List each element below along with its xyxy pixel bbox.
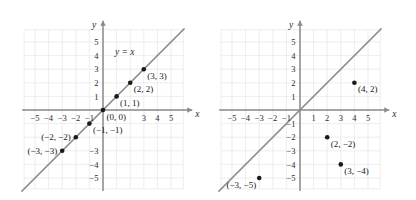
point-label: (0, 0) xyxy=(107,112,127,122)
x-tick--4: −4 xyxy=(241,113,251,123)
y-tick--3: −3 xyxy=(89,146,98,156)
y-tick-2: 2 xyxy=(291,78,295,88)
x-tick-4: 4 xyxy=(352,113,357,123)
point-label: (4, 2) xyxy=(358,84,378,94)
data-point xyxy=(101,108,106,113)
x-axis-label: x xyxy=(391,109,397,119)
x-axis-label: x xyxy=(194,109,200,119)
x-tick-2: 2 xyxy=(325,113,329,123)
x-tick--3: −3 xyxy=(255,113,264,123)
data-point xyxy=(339,162,344,167)
data-point xyxy=(352,81,357,86)
point-label: (−3, −3) xyxy=(28,146,58,156)
x-tick-3: 3 xyxy=(339,113,343,123)
data-point xyxy=(74,135,79,140)
x-tick--2: −2 xyxy=(268,113,277,123)
x-tick--5: −5 xyxy=(227,113,236,123)
x-tick-3: 3 xyxy=(142,113,146,123)
x-tick--5: −5 xyxy=(30,113,39,123)
graph-panel-left: xy−5−4−3−2−134554321−3−4−5y = x(−3, −3)(… xyxy=(0,0,208,200)
y-axis-label: y xyxy=(91,20,97,30)
coordinate-plane-left: xy−5−4−3−2−134554321−3−4−5y = x(−3, −3)(… xyxy=(0,0,208,200)
x-tick-4: 4 xyxy=(155,113,160,123)
graph-panel-right: xy−5−4−3−2−11234554321−1−2−3−4−5(4, 2)(2… xyxy=(208,0,416,200)
y-tick-1: 1 xyxy=(291,92,295,102)
x-tick-5: 5 xyxy=(366,113,370,123)
y-tick-1: 1 xyxy=(94,92,98,102)
y-tick--4: −4 xyxy=(89,160,99,170)
y-tick--1: −1 xyxy=(286,119,295,129)
x-tick--4: −4 xyxy=(44,113,54,123)
point-label: (−2, −2) xyxy=(41,132,71,142)
point-label: (2, −2) xyxy=(331,139,356,149)
y-tick--4: −4 xyxy=(286,160,296,170)
data-point xyxy=(114,94,119,99)
y-tick-3: 3 xyxy=(291,64,295,74)
y-axis-label: y xyxy=(288,20,294,30)
data-point xyxy=(325,135,330,140)
data-point xyxy=(128,81,133,86)
point-label: (3, 3) xyxy=(147,71,167,81)
point-label: (3, −4) xyxy=(344,166,369,176)
point-label: (−1, −1) xyxy=(93,125,123,135)
y-tick-5: 5 xyxy=(94,37,98,47)
data-point xyxy=(257,176,262,181)
equation-label: y = x xyxy=(114,47,135,57)
x-tick-5: 5 xyxy=(169,113,173,123)
y-tick--2: −2 xyxy=(286,132,295,142)
annotations: y = x xyxy=(114,47,135,57)
x-tick--2: −2 xyxy=(71,113,80,123)
point-label: (−3, −5) xyxy=(227,180,257,190)
coordinate-plane-right: xy−5−4−3−2−11234554321−1−2−3−4−5(4, 2)(2… xyxy=(208,0,416,200)
y-tick--3: −3 xyxy=(286,146,295,156)
data-point xyxy=(87,121,92,126)
data-point xyxy=(142,67,147,72)
figure-container: xy−5−4−3−2−134554321−3−4−5y = x(−3, −3)(… xyxy=(0,0,416,200)
x-tick--1: −1 xyxy=(85,113,94,123)
y-tick-3: 3 xyxy=(94,64,98,74)
x-tick-1: 1 xyxy=(311,113,315,123)
y-tick-5: 5 xyxy=(291,37,295,47)
point-label: (1, 1) xyxy=(120,98,140,108)
y-tick-2: 2 xyxy=(94,78,98,88)
x-tick--3: −3 xyxy=(58,113,67,123)
y-tick--5: −5 xyxy=(286,173,295,183)
data-point xyxy=(60,149,65,154)
y-tick--5: −5 xyxy=(89,173,98,183)
point-label: (2, 2) xyxy=(134,84,154,94)
